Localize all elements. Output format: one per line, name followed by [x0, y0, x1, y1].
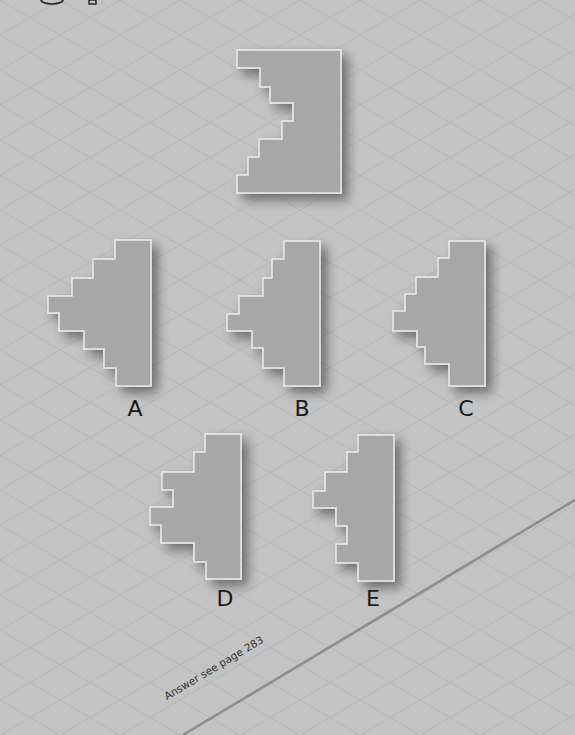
option-label-e: E — [366, 588, 380, 610]
option-label-a: A — [127, 398, 142, 420]
option-label-d: D — [217, 588, 234, 610]
puzzle-canvas — [0, 0, 575, 735]
option-label-c: C — [458, 398, 473, 420]
option-label-b: B — [294, 398, 309, 420]
